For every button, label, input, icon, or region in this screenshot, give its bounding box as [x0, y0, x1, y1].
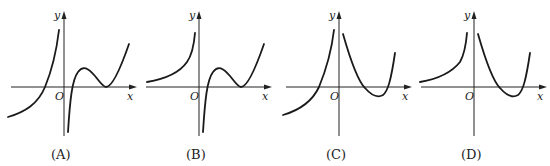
panel-caption: (D)	[461, 147, 482, 162]
y-axis-label: y	[188, 9, 196, 22]
x-axis-label: x	[537, 90, 544, 103]
y-axis-label: y	[463, 9, 471, 22]
origin-label: O	[190, 90, 199, 103]
left-branch-curve	[8, 30, 59, 117]
y-axis-label: y	[328, 9, 336, 22]
panel-a: y O x (A)	[8, 9, 137, 162]
left-branch-curve	[147, 33, 195, 82]
panel-c: y O x (C)	[283, 9, 412, 162]
left-branch-curve	[283, 30, 334, 115]
panel-caption: (B)	[186, 147, 206, 162]
origin-label: O	[55, 90, 64, 103]
right-branch-curve	[68, 44, 129, 132]
panel-caption: (C)	[326, 147, 346, 162]
x-axis-label: x	[127, 90, 134, 103]
axes	[286, 11, 412, 136]
axes	[421, 11, 547, 136]
right-branch-curve	[203, 44, 264, 132]
panel-caption: (A)	[51, 147, 71, 162]
panel-d: y O x (D)	[420, 9, 547, 162]
origin-label: O	[465, 90, 474, 103]
function-graphs-figure: y O x (A) y O x (B) y O x (C) y O x (D)	[0, 0, 550, 166]
y-axis-label: y	[53, 9, 61, 22]
left-branch-curve	[420, 33, 467, 82]
origin-label: O	[330, 90, 339, 103]
x-axis-label: x	[402, 90, 409, 103]
x-axis-label: x	[262, 90, 269, 103]
panel-b: y O x (B)	[146, 9, 272, 162]
